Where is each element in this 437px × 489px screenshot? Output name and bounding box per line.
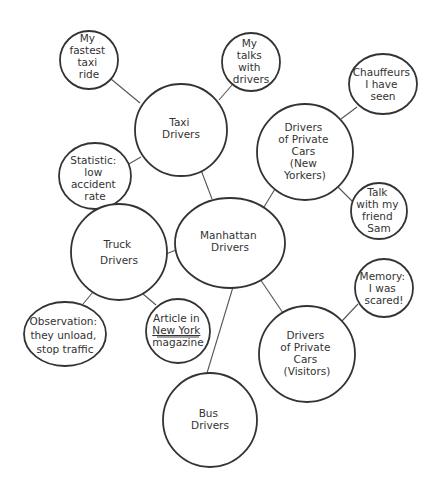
- edge-taxi-talks: [219, 85, 232, 100]
- node-memory: Memory: I was scared!: [355, 259, 413, 317]
- edge-manhattan-private-visitors: [260, 279, 283, 313]
- node-bus-line-0: Bus: [199, 407, 218, 419]
- node-private-ny-line-0: Drivers: [284, 121, 322, 133]
- node-statistic-line-0: Statistic:: [70, 154, 116, 166]
- node-private-ny: Drivers of Private Cars (New Yorkers): [257, 104, 353, 200]
- node-memory-line-1: I was: [369, 282, 396, 294]
- node-observation-line-0: Observation:: [30, 315, 97, 327]
- node-private-ny-line-1: of Private: [278, 133, 328, 145]
- node-talks: My talks with drivers: [222, 33, 280, 91]
- node-truck-circle: [71, 204, 167, 300]
- edge-manhattan-private-ny: [264, 189, 275, 207]
- node-bus: Bus Drivers: [163, 373, 257, 467]
- edge-truck-article: [143, 294, 156, 305]
- node-fastest-line-2: taxi: [77, 56, 97, 68]
- node-chauffeurs-line-0: Chauffeurs: [353, 66, 410, 78]
- node-bus-line-1: Drivers: [191, 419, 229, 431]
- node-article-line-2: magazine: [152, 336, 203, 348]
- node-private-visitors-line-2: Cars: [294, 353, 318, 365]
- edge-privateny-chauffeurs: [341, 107, 357, 119]
- node-private-visitors: Drivers of Private Cars (Visitors): [259, 306, 355, 402]
- node-sam-line-3: Sam: [367, 222, 390, 234]
- node-private-ny-line-2: Cars: [292, 145, 316, 157]
- node-article-line-1-underlined: New York: [152, 324, 201, 336]
- node-private-ny-line-4: Yorkers): [283, 169, 326, 181]
- node-chauffeurs: Chauffeurs I have seen: [349, 54, 417, 114]
- node-manhattan: Manhattan Drivers: [175, 198, 285, 288]
- node-sam: Talk with my friend Sam: [351, 183, 407, 239]
- node-fastest: My fastest taxi ride: [60, 31, 118, 89]
- node-talks-line-3: drivers: [233, 73, 269, 85]
- node-observation-line-1: they unload,: [30, 329, 96, 341]
- edge-visitors-memory: [342, 304, 358, 321]
- node-private-ny-line-3: (New: [290, 157, 317, 169]
- node-private-visitors-line-3: (Visitors): [284, 365, 331, 377]
- edge-privateny-sam: [338, 187, 354, 203]
- node-taxi: Taxi Drivers: [135, 84, 227, 176]
- node-private-visitors-line-1: of Private: [280, 341, 330, 353]
- node-truck-line-0: Truck: [102, 238, 132, 250]
- node-memory-line-0: Memory:: [360, 270, 405, 282]
- node-observation-line-2: stop traffic: [37, 343, 94, 355]
- node-article: Article in New York magazine: [146, 299, 210, 363]
- node-private-visitors-line-0: Drivers: [286, 329, 324, 341]
- node-truck-line-1: Drivers: [100, 254, 138, 266]
- node-chauffeurs-line-2: seen: [370, 90, 395, 102]
- cluster-diagram: My fastest taxi ride My talks with drive…: [0, 0, 437, 489]
- node-article-line-0: Article in: [153, 312, 200, 324]
- node-talks-line-2: with: [238, 61, 260, 73]
- node-statistic-line-2: accident: [71, 178, 116, 190]
- node-talks-line-1: talks: [237, 49, 262, 61]
- node-truck: Truck Drivers: [71, 204, 167, 300]
- node-talks-line-0: My: [242, 37, 257, 49]
- node-statistic-line-1: low: [84, 166, 102, 178]
- node-sam-line-1: with my: [356, 198, 398, 210]
- svg-text:Article in New York: Article in New York magazine: [152, 312, 203, 348]
- node-statistic-line-3: rate: [84, 190, 105, 202]
- svg-text:Observation: they unload: Observation: they unload, stop traffic: [30, 315, 101, 355]
- edge-truck-observation: [83, 292, 93, 304]
- node-taxi-line-1: Drivers: [162, 128, 200, 140]
- node-chauffeurs-line-1: I have: [365, 78, 397, 90]
- node-fastest-line-0: My: [80, 32, 95, 44]
- node-observation: Observation: they unload, stop traffic: [24, 302, 106, 366]
- edge-manhattan-bus: [207, 287, 233, 373]
- node-sam-line-2: friend: [362, 210, 393, 222]
- node-manhattan-line-1: Drivers: [211, 241, 249, 253]
- node-sam-line-0: Talk: [366, 186, 388, 198]
- edge-taxi-fastest: [111, 79, 140, 103]
- node-memory-line-2: scared!: [364, 294, 403, 306]
- node-taxi-line-0: Taxi: [168, 116, 189, 128]
- node-statistic: Statistic: low accident rate: [59, 143, 131, 209]
- node-fastest-line-1: fastest: [69, 44, 105, 56]
- edge-manhattan-taxi: [201, 170, 212, 199]
- node-manhattan-line-0: Manhattan: [200, 229, 257, 241]
- node-fastest-line-3: ride: [79, 68, 99, 80]
